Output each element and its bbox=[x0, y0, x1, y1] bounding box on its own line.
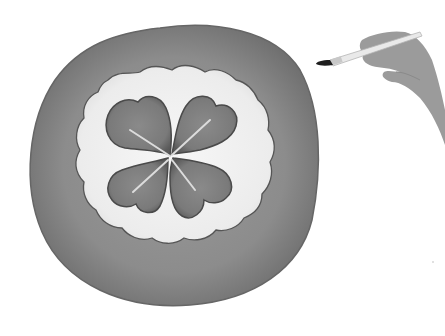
hand-with-paintbrush bbox=[316, 31, 445, 145]
wavy-inner-field bbox=[76, 66, 274, 244]
paper-speck bbox=[432, 261, 434, 263]
watercolor-illustration bbox=[0, 0, 445, 336]
